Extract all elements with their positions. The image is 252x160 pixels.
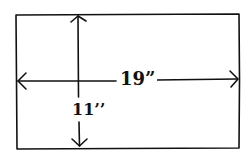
width-dimension-label: 19” [118,70,157,88]
height-dimension-label: 11’’ [71,102,106,118]
